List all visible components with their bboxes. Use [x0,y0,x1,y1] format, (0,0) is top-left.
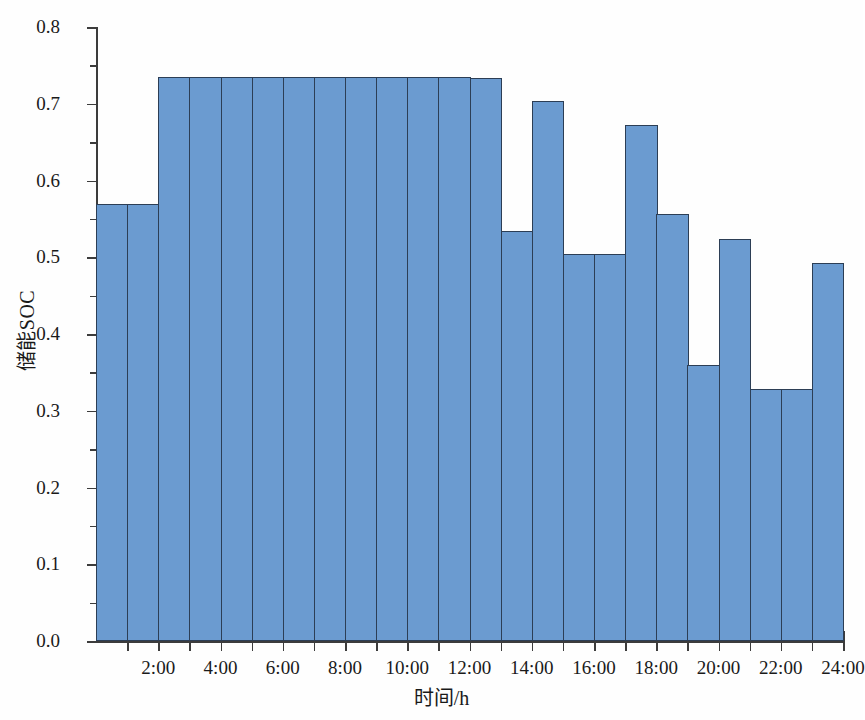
x-tick [687,641,689,651]
x-tick-label: 14:00 [510,657,553,679]
y-tick-label: 0.5 [0,246,74,268]
x-tick [189,641,191,651]
y-tick-label: 0.1 [0,553,74,575]
x-tick-label: 8:00 [328,657,362,679]
bar [189,77,222,641]
bar [656,214,689,641]
bar [594,254,627,641]
y-tick [87,564,96,566]
bar [252,77,285,641]
x-tick-label: 22:00 [759,657,802,679]
bar [438,77,471,641]
bar [407,77,440,641]
bar [563,254,596,641]
bar [532,101,565,641]
bar [812,263,845,641]
y-tick-label: 0.6 [0,170,74,192]
bar [687,365,720,641]
x-tick [750,641,752,651]
x-tick [158,641,160,651]
x-tick-label: 4:00 [204,657,238,679]
x-tick-label: 6:00 [266,657,300,679]
x-axis-title: 时间/h [0,682,863,711]
plot-area: 0.00.10.20.30.40.50.60.70.8 2:004:006:00… [96,27,845,643]
y-tick-label: 0.3 [0,400,74,422]
x-tick [812,641,814,651]
x-tick [376,641,378,651]
x-tick-label: 2:00 [141,657,175,679]
y-tick-label: 0.8 [0,16,74,38]
x-tick-label: 18:00 [635,657,678,679]
x-tick [656,641,658,651]
bar [283,77,316,641]
y-tick [87,181,96,183]
x-tick [625,641,627,651]
bar [501,231,534,641]
x-axis-title-text: 时间/h [414,687,470,709]
x-tick [407,641,409,651]
bar [781,389,814,641]
x-tick [470,641,472,651]
x-tick [221,641,223,651]
bar [750,389,783,641]
x-tick-label: 12:00 [448,657,491,679]
x-tick [252,641,254,651]
bar [719,239,752,641]
y-tick-label: 0.7 [0,93,74,115]
y-tick [87,641,96,643]
y-tick-minor [90,142,96,144]
bar [158,77,191,641]
x-tick [314,641,316,651]
x-tick [563,641,565,651]
x-tick [594,641,596,651]
x-tick [719,641,721,651]
y-tick-minor [90,65,96,67]
bar [625,125,658,641]
x-tick-label: 16:00 [572,657,615,679]
x-tick [532,641,534,651]
x-tick [127,641,129,651]
y-tick [87,27,96,29]
x-tick [501,641,503,651]
x-tick [283,641,285,651]
x-tick-label: 24:00 [821,657,864,679]
y-tick [87,488,96,490]
x-tick-label: 20:00 [697,657,740,679]
x-tick-label: 10:00 [386,657,429,679]
x-tick [438,641,440,651]
y-tick-label: 0.4 [0,323,74,345]
y-tick [87,334,96,336]
bar [376,77,409,641]
bar [314,77,347,641]
x-tick [781,641,783,651]
bar [127,204,160,641]
bar [345,77,378,641]
y-tick-label: 0.0 [0,630,74,652]
bar [96,204,129,641]
y-tick [87,257,96,259]
x-tick [345,641,347,651]
y-tick-label: 0.2 [0,477,74,499]
x-tick [843,641,845,651]
bar [470,78,503,641]
bar [221,77,254,641]
y-tick [87,411,96,413]
y-tick [87,104,96,106]
